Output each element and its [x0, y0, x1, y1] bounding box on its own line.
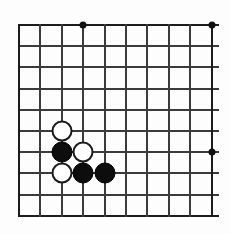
- grid-line-vertical: [18, 24, 20, 217]
- black-stone-e7[interactable]: [94, 163, 115, 184]
- black-stone-c6[interactable]: [51, 142, 72, 163]
- grid-line-vertical: [125, 24, 127, 217]
- white-stone-c5[interactable]: [51, 121, 72, 142]
- grid-line-vertical: [82, 24, 84, 217]
- go-board[interactable]: [0, 0, 230, 234]
- star-point-top-right-icon: [208, 22, 215, 29]
- grid-line-vertical: [211, 24, 213, 217]
- black-stone-d7[interactable]: [73, 163, 94, 184]
- star-point-right-icon: [208, 149, 215, 156]
- grid-line-vertical: [189, 24, 191, 217]
- grid-line-vertical: [104, 24, 106, 217]
- white-stone-d6[interactable]: [73, 142, 94, 163]
- white-stone-c7[interactable]: [51, 163, 72, 184]
- grid-line-vertical: [39, 24, 41, 217]
- star-point-top-icon: [80, 22, 87, 29]
- grid-line-vertical: [146, 24, 148, 217]
- grid-line-vertical: [168, 24, 170, 217]
